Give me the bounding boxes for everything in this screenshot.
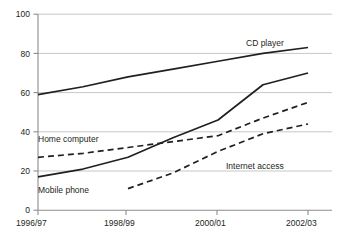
x-axis-label-2002-03: 2002/03 [286,218,317,228]
x-axis: 1996/97 1998/99 2000/01 2002/03 [16,210,332,228]
y-axis-label-20: 20 [21,166,31,176]
series-label-mobile-phone: Mobile phone [38,185,89,195]
series-annotations: CD player Home computer Mobile phone Int… [38,38,284,195]
x-axis-label-1998-99: 1998/99 [104,218,135,228]
chart-canvas: 100 80 60 40 20 0 1996/97 1998/99 2000/0… [0,0,340,245]
series-label-cd-player: CD player [246,38,284,48]
series-line-cd-player [38,48,308,95]
y-axis-label-60: 60 [21,88,31,98]
gridlines [38,14,332,171]
x-axis-label-2000-01: 2000/01 [195,218,226,228]
y-axis-label-80: 80 [21,49,31,59]
series-label-internet-access: Internet access [226,161,284,171]
series-line-internet-access [128,124,308,189]
line-chart: 100 80 60 40 20 0 1996/97 1998/99 2000/0… [0,0,340,245]
y-axis-label-100: 100 [16,9,30,19]
y-axis: 100 80 60 40 20 0 [16,9,38,215]
series-line-home-computer [38,102,308,157]
y-axis-label-40: 40 [21,127,31,137]
x-axis-label-1996-97: 1996/97 [16,218,47,228]
series-label-home-computer: Home computer [38,134,99,144]
y-axis-label-0: 0 [25,205,30,215]
